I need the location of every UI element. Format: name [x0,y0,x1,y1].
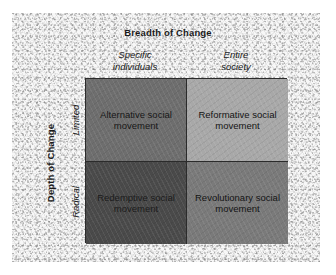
matrix-grid: Alternative social movement Reformative … [85,78,287,243]
x-axis-title: Breadth of Change [0,27,336,38]
quadrant-label: Revolutionary social movement [192,192,283,215]
quadrant-alternative-social-movement: Alternative social movement [86,79,187,162]
quadrant-label: Redemptive social movement [91,192,181,215]
quadrant-label: Alternative social movement [91,109,181,132]
diagram-figure: Breadth of Change Depth of Change Specif… [0,0,336,275]
quadrant-label: Reformative social movement [192,109,283,132]
y-axis-title: Depth of Change [45,124,56,202]
row-header-limited: Limited [70,105,81,136]
column-header-specific-individuals: Specificindividuals [85,49,185,72]
row-header-radical: Radical [70,186,81,218]
column-header-entire-society: Entiresociety [186,49,286,72]
quadrant-revolutionary-social-movement: Revolutionary social movement [187,162,288,244]
quadrant-redemptive-social-movement: Redemptive social movement [86,162,187,244]
quadrant-reformative-social-movement: Reformative social movement [187,79,288,162]
